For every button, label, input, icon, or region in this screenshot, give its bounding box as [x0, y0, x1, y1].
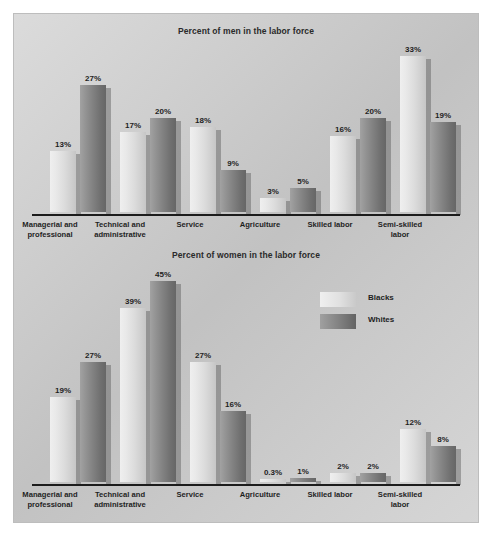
chart-women-x-axis [32, 484, 460, 486]
bar-blacks-4 [330, 136, 356, 212]
bar-whites-1 [150, 118, 176, 212]
bar-group-item: 19% [50, 397, 76, 482]
bar-value-label: 16% [324, 125, 362, 134]
x-axis-category-label: Semi-skilledlabor [357, 490, 443, 509]
bar-value-label: 13% [44, 140, 82, 149]
bar-group-item: 16% [330, 136, 356, 212]
bar-value-label: 33% [394, 45, 432, 54]
bar-blacks-3 [260, 479, 286, 482]
bar-group-item: 27% [190, 362, 216, 482]
bar-whites-2 [220, 170, 246, 213]
bar-value-label: 39% [114, 297, 152, 306]
bar-value-label: 27% [74, 74, 112, 83]
bar-shadow [456, 449, 461, 485]
bar-group-item: 0.3% [260, 479, 286, 482]
bar-whites-5 [430, 446, 456, 482]
bar-value-label: 45% [144, 270, 182, 279]
bar-group-item: 18% [190, 127, 216, 212]
legend-swatch-whites [320, 314, 356, 329]
chart-figure-panel: Percent of men in the labor force 13%27%… [14, 14, 478, 522]
bar-shadow [316, 191, 321, 215]
bar-shadow [386, 121, 391, 215]
bar-value-label: 1% [284, 467, 322, 476]
bar-value-label: 5% [284, 177, 322, 186]
legend-label-blacks: Blacks [368, 293, 394, 302]
bar-group-item: 19% [430, 122, 456, 212]
bar-value-label: 12% [394, 418, 432, 427]
bar-value-label: 20% [354, 107, 392, 116]
bar-blacks-5 [400, 429, 426, 483]
chart-women-title: Percent of women in the labor force [14, 250, 478, 260]
x-axis-category-label: Semi-skilledlabor [357, 220, 443, 239]
bar-group-item: 1% [290, 478, 316, 482]
bar-whites-2 [220, 411, 246, 482]
bar-value-label: 16% [214, 400, 252, 409]
bar-value-label: 9% [214, 159, 252, 168]
bar-blacks-0 [50, 151, 76, 212]
bar-shadow [176, 121, 181, 215]
bar-whites-0 [80, 85, 106, 213]
bar-value-label: 27% [74, 351, 112, 360]
bar-value-label: 27% [184, 351, 222, 360]
bar-value-label: 18% [184, 116, 222, 125]
bar-value-label: 8% [424, 435, 462, 444]
bar-value-label: 17% [114, 121, 152, 130]
bar-group-item: 2% [360, 473, 386, 482]
bar-group-item: 20% [360, 118, 386, 212]
bar-whites-1 [150, 281, 176, 482]
legend-entry-whites: Whites [320, 312, 440, 334]
bar-group-item: 33% [400, 56, 426, 212]
bar-blacks-4 [330, 473, 356, 482]
chart-legend: Blacks Whites [320, 290, 440, 334]
bar-group-item: 16% [220, 411, 246, 482]
bar-group-item: 17% [120, 132, 146, 212]
bar-group-item: 2% [330, 473, 356, 482]
bar-group-item: 12% [400, 429, 426, 483]
bar-whites-0 [80, 362, 106, 482]
bar-group-item: 8% [430, 446, 456, 482]
chart-men-plot-area: 13%27%17%20%18%9%3%5%16%20%33%19% [34, 42, 458, 212]
bar-blacks-0 [50, 397, 76, 482]
bar-whites-4 [360, 118, 386, 212]
chart-women: Percent of women in the labor force 19%2… [14, 242, 478, 518]
bar-group-item: 3% [260, 198, 286, 212]
bar-shadow [106, 365, 111, 485]
bar-group-item: 20% [150, 118, 176, 212]
bar-value-label: 3% [254, 187, 292, 196]
bar-blacks-1 [120, 308, 146, 482]
bar-group-item: 13% [50, 151, 76, 212]
legend-swatch-blacks [320, 292, 356, 307]
bar-value-label: 19% [424, 111, 462, 120]
bar-value-label: 20% [144, 107, 182, 116]
bar-shadow [106, 88, 111, 216]
bar-value-label: 19% [44, 386, 82, 395]
bar-blacks-2 [190, 362, 216, 482]
legend-label-whites: Whites [368, 315, 394, 324]
bar-whites-3 [290, 478, 316, 482]
bar-shadow [246, 173, 251, 216]
bar-group-item: 9% [220, 170, 246, 213]
bar-group-item: 39% [120, 308, 146, 482]
bar-whites-3 [290, 188, 316, 212]
bar-blacks-2 [190, 127, 216, 212]
chart-men-x-axis [32, 214, 460, 216]
bar-shadow [176, 284, 181, 485]
bar-shadow [456, 125, 461, 215]
bar-group-item: 27% [80, 85, 106, 213]
bar-blacks-1 [120, 132, 146, 212]
bar-value-label: 2% [354, 462, 392, 471]
chart-men: Percent of men in the labor force 13%27%… [14, 20, 478, 258]
chart-men-title: Percent of men in the labor force [14, 26, 478, 36]
bar-group-item: 45% [150, 281, 176, 482]
bar-shadow [246, 414, 251, 485]
bar-group-item: 27% [80, 362, 106, 482]
bar-whites-4 [360, 473, 386, 482]
bar-group-item: 5% [290, 188, 316, 212]
bar-blacks-3 [260, 198, 286, 212]
bar-whites-5 [430, 122, 456, 212]
bar-blacks-5 [400, 56, 426, 212]
legend-entry-blacks: Blacks [320, 290, 440, 312]
